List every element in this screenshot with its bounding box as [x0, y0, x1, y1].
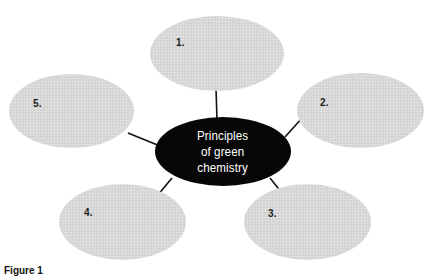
node-ellipse-5[interactable]: 5.: [9, 74, 134, 148]
connector-line-1: [216, 88, 217, 120]
node-ellipse-4[interactable]: 4.: [59, 184, 186, 260]
figure-caption: Figure 1: [4, 266, 43, 276]
node-label-5: 5.: [33, 99, 42, 109]
node-ellipse-2[interactable]: 2.: [297, 73, 424, 148]
center-node-text: Principles of green chemistry: [197, 128, 248, 176]
node-label-1: 1.: [176, 38, 185, 48]
center-text-line-1: Principles: [197, 128, 248, 144]
node-label-2: 2.: [320, 98, 329, 108]
node-ellipse-3[interactable]: 3.: [244, 184, 371, 260]
node-ellipse-center[interactable]: Principles of green chemistry: [155, 117, 291, 186]
node-ellipse-1[interactable]: 1.: [150, 16, 284, 91]
node-label-4: 4.: [84, 208, 93, 218]
center-text-line-3: chemistry: [197, 160, 248, 176]
node-label-3: 3.: [268, 209, 277, 219]
center-text-line-2: of green: [197, 144, 248, 160]
radial-diagram: 1. 5. 2. 4. 3. Principles of green chemi…: [0, 0, 430, 264]
connector-line-5: [128, 133, 160, 146]
